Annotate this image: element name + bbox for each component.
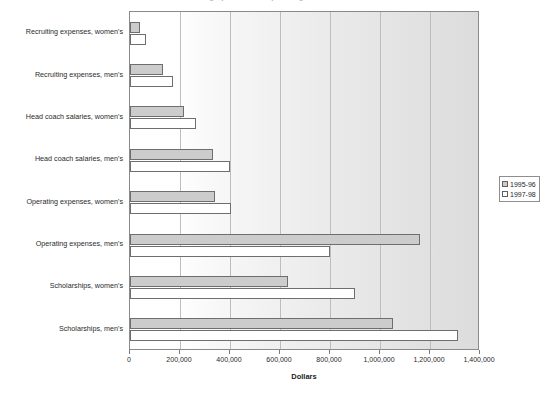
y-axis-label: Recruiting expenses, men's — [0, 70, 123, 79]
x-tick-mark — [479, 350, 480, 354]
bar-group — [130, 22, 478, 45]
bar-group — [130, 64, 478, 87]
x-tick-label: 600,000 — [266, 356, 291, 363]
legend-swatch-icon — [502, 191, 508, 197]
x-tick-mark — [179, 350, 180, 354]
bar-group — [130, 276, 478, 299]
chart-title: Average per-school spending — [0, 0, 490, 1]
legend-label: 1995-96 — [510, 180, 536, 189]
bar — [130, 191, 215, 202]
bar — [130, 76, 173, 87]
bar-group — [130, 191, 478, 214]
x-tick-label: 200,000 — [166, 356, 191, 363]
legend-item[interactable]: 1997-98 — [502, 189, 536, 199]
plot-area — [129, 11, 479, 350]
x-tick-mark — [379, 350, 380, 354]
bar — [130, 203, 231, 214]
x-tick-label: 1,000,000 — [363, 356, 394, 363]
y-axis-label: Scholarships, women's — [0, 281, 123, 290]
y-axis-label: Operating expenses, men's — [0, 239, 123, 248]
legend: 1995-961997-98 — [499, 176, 540, 202]
bar-group — [130, 318, 478, 341]
bar — [130, 22, 140, 33]
bar-chart: Average per-school spending Recruiting e… — [0, 0, 555, 401]
y-axis-labels: Recruiting expenses, women'sRecruiting e… — [0, 11, 126, 350]
x-tick-mark — [429, 350, 430, 354]
x-tick-label: 1,400,000 — [463, 356, 494, 363]
bar-group — [130, 234, 478, 257]
bar — [130, 318, 393, 329]
x-tick-mark — [279, 350, 280, 354]
x-tick-mark — [329, 350, 330, 354]
x-tick-mark — [129, 350, 130, 354]
bar — [130, 246, 330, 257]
bar — [130, 34, 146, 45]
bar — [130, 118, 196, 129]
y-axis-label: Operating expenses, women's — [0, 197, 123, 206]
bar-group — [130, 106, 478, 129]
bar — [130, 106, 184, 117]
legend-swatch-icon — [502, 181, 508, 187]
x-tick-mark — [229, 350, 230, 354]
y-axis-label: Head coach salaries, women's — [0, 112, 123, 121]
x-tick-label: 800,000 — [316, 356, 341, 363]
y-axis-label: Head coach salaries, men's — [0, 154, 123, 163]
bar — [130, 288, 355, 299]
bar — [130, 234, 420, 245]
bar — [130, 64, 163, 75]
bar — [130, 149, 213, 160]
x-tick-label: 400,000 — [216, 356, 241, 363]
legend-label: 1997-98 — [510, 190, 536, 199]
bar-group — [130, 149, 478, 172]
x-tick-label: 1,200,000 — [413, 356, 444, 363]
bar — [130, 276, 288, 287]
legend-item[interactable]: 1995-96 — [502, 179, 536, 189]
y-axis-label: Scholarships, men's — [0, 324, 123, 333]
bar — [130, 330, 458, 341]
x-axis-title: Dollars — [129, 372, 479, 381]
x-tick-label: 0 — [127, 356, 131, 363]
x-axis-ticks: 0200,000400,000600,000800,0001,000,0001,… — [129, 350, 479, 368]
y-axis-label: Recruiting expenses, women's — [0, 27, 123, 36]
bar — [130, 161, 230, 172]
